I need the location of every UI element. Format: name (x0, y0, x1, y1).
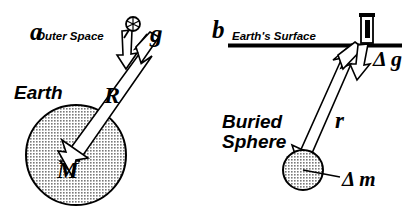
distance-symbol: r (335, 108, 345, 133)
gravimeter-dial (365, 20, 370, 38)
gravimeter-cap (359, 13, 375, 17)
panel-b: b Earth's Surface r Δ g Buried (212, 13, 402, 191)
buried-sphere-label-line1: Buried (222, 111, 283, 132)
gravity-diagram-figure: a Outer Space Earth R M (0, 0, 405, 221)
panel-b-letter: b (212, 16, 225, 43)
delta-m-symbol: Δ m (341, 167, 376, 191)
gravimeter-icon (359, 13, 375, 43)
radius-symbol: R (103, 82, 120, 108)
buried-sphere-label-line2: Sphere (222, 131, 287, 152)
delta-g-symbol: Δ g (372, 46, 402, 71)
diagram-canvas: a Outer Space Earth R M (0, 0, 405, 221)
earth-label: Earth (14, 82, 63, 103)
outer-space-label: Outer Space (36, 30, 104, 42)
gravity-symbol: g (149, 20, 163, 47)
panel-a: a Outer Space Earth R M (14, 17, 163, 205)
earth-surface-label: Earth's Surface (232, 30, 317, 42)
mass-symbol: M (56, 157, 80, 183)
